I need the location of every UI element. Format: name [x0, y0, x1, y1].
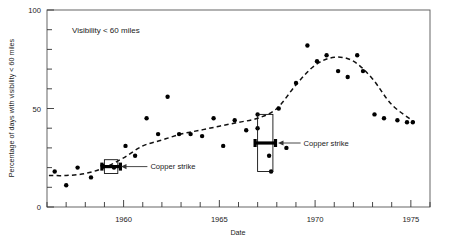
data-point: [156, 132, 160, 136]
y-tick-label: 50: [33, 105, 41, 114]
data-point: [177, 132, 181, 136]
chart-background: [0, 0, 449, 245]
data-point: [89, 175, 93, 179]
data-point: [244, 128, 248, 132]
data-point: [133, 154, 137, 158]
data-point: [324, 53, 328, 57]
data-point: [200, 134, 204, 138]
data-point: [233, 118, 237, 122]
data-point: [361, 69, 365, 73]
data-point: [267, 154, 271, 158]
data-point: [336, 69, 340, 73]
visibility-scatter-chart: 050100 1960196519701975 Copper strikeCop…: [0, 0, 449, 245]
data-point: [123, 144, 127, 148]
data-point: [53, 169, 57, 173]
data-point: [221, 144, 225, 148]
data-point: [284, 146, 288, 150]
data-point: [346, 75, 350, 79]
x-tick-label: 1965: [211, 215, 228, 224]
x-tick-label: 1970: [307, 215, 324, 224]
data-point: [411, 120, 415, 124]
data-point: [315, 59, 319, 63]
chart-figure: 050100 1960196519701975 Copper strikeCop…: [0, 0, 449, 245]
data-point: [165, 95, 169, 99]
annotation-label: Copper strike: [304, 139, 349, 148]
data-point: [305, 43, 309, 47]
data-point: [395, 118, 399, 122]
y-tick-label: 100: [28, 6, 41, 15]
x-axis-title: Date: [230, 228, 245, 237]
data-point: [144, 116, 148, 120]
data-point: [75, 165, 79, 169]
data-point: [382, 116, 386, 120]
data-point: [294, 81, 298, 85]
x-tick-label: 1975: [402, 215, 419, 224]
data-point: [188, 132, 192, 136]
y-axis-title: Percentage of days with visibility < 60 …: [7, 38, 16, 177]
data-point: [405, 120, 409, 124]
x-tick-label: 1960: [115, 215, 132, 224]
data-point: [64, 183, 68, 187]
y-tick-label: 0: [37, 203, 41, 212]
annotation-label: Copper strike: [150, 162, 195, 171]
data-point: [372, 112, 376, 116]
panel-note: Visibility < 60 miles: [72, 26, 140, 35]
data-point: [211, 116, 215, 120]
data-point: [277, 106, 281, 110]
data-point: [355, 53, 359, 57]
